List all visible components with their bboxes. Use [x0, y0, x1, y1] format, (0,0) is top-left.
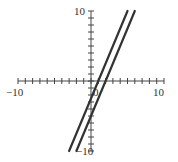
x-max-label: 10 — [153, 86, 165, 98]
axes — [18, 11, 164, 151]
y-axis-ticks — [88, 11, 94, 151]
line-chart: −10 10 10 −10 0 — [0, 0, 178, 162]
y-max-label: 10 — [74, 5, 86, 17]
x-min-label: −10 — [6, 86, 24, 98]
